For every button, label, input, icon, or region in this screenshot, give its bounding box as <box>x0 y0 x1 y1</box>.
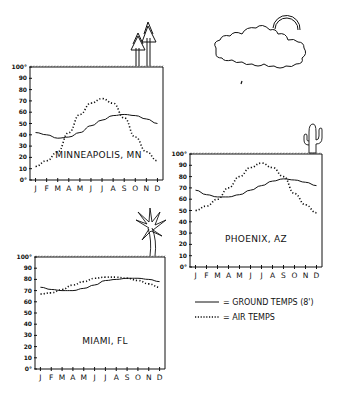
x-tick-label: M <box>81 373 87 382</box>
y-tick-label: 100° <box>171 150 187 157</box>
plot-frame <box>35 257 165 369</box>
x-tick-label: J <box>38 373 41 382</box>
y-tick-label: 80 <box>179 173 187 180</box>
x-tick-label: D <box>314 271 320 280</box>
y-tick-label: 90 <box>179 161 187 168</box>
x-tick-label: M <box>77 184 83 193</box>
x-tick-label: M <box>236 271 242 280</box>
x-tick-label: D <box>157 373 163 382</box>
x-tick-label: F <box>44 184 48 193</box>
y-tick-label: 20 <box>179 240 187 247</box>
y-tick-label: 70 <box>179 184 187 191</box>
ground-temp-line <box>40 278 159 290</box>
x-tick-label: N <box>303 271 309 280</box>
x-tick-label: J <box>259 271 262 280</box>
palm-tree-icon <box>136 208 166 256</box>
legend-air-label: = AIR TEMPS <box>223 313 275 322</box>
y-tick-label: 10 <box>19 165 27 172</box>
y-tick-label: 90 <box>19 74 27 81</box>
y-tick-label: 80 <box>19 86 27 93</box>
x-tick-label: S <box>125 373 130 382</box>
y-tick-label: 0° <box>20 176 27 183</box>
city-label: PHOENIX, AZ <box>225 234 287 244</box>
cactus-icon <box>304 124 322 153</box>
pine-trees-icon <box>131 22 156 66</box>
air-temp-line <box>40 277 159 294</box>
x-tick-label: S <box>122 184 127 193</box>
y-tick-label: 30 <box>24 331 32 338</box>
x-tick-label: M <box>214 271 220 280</box>
x-tick-label: F <box>49 373 53 382</box>
legend-ground-label: = GROUND TEMPS (8') <box>223 298 314 307</box>
chart-2: 0°102030405060708090100°JFMAMJJASONDMIAM… <box>16 253 165 382</box>
x-tick-label: D <box>155 184 161 193</box>
y-tick-label: 60 <box>179 195 187 202</box>
chart-0: 0°102030405060708090100°JFMAMJJASONDMINN… <box>11 63 163 193</box>
x-tick-label: J <box>193 271 196 280</box>
ground-temp-line <box>196 179 317 197</box>
y-tick-label: 40 <box>179 218 187 225</box>
y-tick-label: 20 <box>24 343 32 350</box>
x-tick-label: A <box>114 373 120 382</box>
y-tick-label: 80 <box>24 275 32 282</box>
y-tick-label: 60 <box>19 108 27 115</box>
plot-frame <box>190 154 322 267</box>
x-tick-label: O <box>132 184 138 193</box>
legend: = GROUND TEMPS (8') = AIR TEMPS <box>195 298 314 322</box>
x-tick-label: J <box>103 373 106 382</box>
y-tick-label: 70 <box>19 97 27 104</box>
cloud-sun-icon <box>215 15 306 68</box>
y-tick-label: 10 <box>24 354 32 361</box>
y-tick-label: 40 <box>19 131 27 138</box>
y-tick-label: 100° <box>11 63 27 70</box>
y-tick-label: 40 <box>24 320 32 327</box>
x-tick-label: A <box>226 271 232 280</box>
x-tick-label: O <box>292 271 298 280</box>
y-tick-label: 60 <box>24 298 32 305</box>
x-tick-label: A <box>111 184 117 193</box>
city-label: MIAMI, FL <box>82 336 128 346</box>
x-tick-label: A <box>270 271 276 280</box>
ground-temp-line <box>36 114 158 138</box>
city-label: MINNEAPOLIS, MN <box>55 150 141 160</box>
x-tick-label: J <box>248 271 251 280</box>
x-tick-label: J <box>33 184 36 193</box>
y-tick-label: 30 <box>19 142 27 149</box>
x-tick-label: A <box>70 373 76 382</box>
y-tick-label: 50 <box>19 120 27 127</box>
x-tick-label: N <box>144 184 150 193</box>
chart-1: 0°102030405060708090100°JFMAMJJASONDPHOE… <box>171 150 322 280</box>
x-tick-label: J <box>92 373 95 382</box>
figure: 0°102030405060708090100°JFMAMJJASONDMINN… <box>0 0 340 404</box>
x-tick-label: A <box>66 184 72 193</box>
y-tick-label: 30 <box>179 229 187 236</box>
x-tick-label: M <box>54 184 60 193</box>
y-tick-label: 50 <box>179 207 187 214</box>
x-tick-label: N <box>146 373 152 382</box>
x-tick-label: S <box>281 271 286 280</box>
y-tick-label: 100° <box>16 253 32 260</box>
y-tick-label: 0° <box>25 365 32 372</box>
x-tick-label: M <box>59 373 65 382</box>
x-tick-label: J <box>89 184 92 193</box>
x-tick-label: O <box>135 373 141 382</box>
y-tick-label: 50 <box>24 309 32 316</box>
y-tick-label: 0° <box>180 263 187 270</box>
speck <box>241 81 242 84</box>
y-tick-label: 20 <box>19 153 27 160</box>
y-tick-label: 70 <box>24 287 32 294</box>
x-tick-label: F <box>204 271 208 280</box>
x-tick-label: J <box>100 184 103 193</box>
y-tick-label: 10 <box>179 252 187 259</box>
y-tick-label: 90 <box>24 264 32 271</box>
